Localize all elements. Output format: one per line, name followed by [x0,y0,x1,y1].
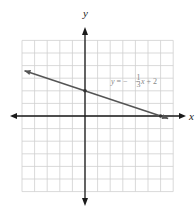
line-left-arrow-icon [25,70,32,75]
svg-text:3: 3 [137,80,141,89]
x-axis-label: x [188,110,194,122]
coordinate-plane: x y y = − 1 3 x + 2 [0,0,196,216]
x-axis-right-arrow-icon [179,113,186,119]
svg-text:x + 2: x + 2 [140,77,157,86]
equation-label: y = − 1 3 x + 2 [110,73,157,89]
svg-text:y = −: y = − [110,77,128,86]
x-intercept-point [159,114,163,118]
y-axis-down-arrow-icon [82,198,88,206]
x-axis-left-arrow-icon [10,113,17,119]
y-intercept-point [83,89,87,93]
y-axis-label: y [82,7,88,19]
y-axis-up-arrow-icon [82,27,88,35]
